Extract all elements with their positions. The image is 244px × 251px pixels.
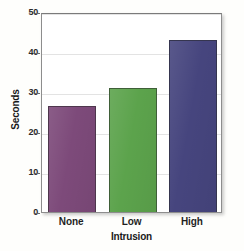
bar xyxy=(109,88,157,212)
y-axis-tick-mark xyxy=(35,13,40,14)
bar-chart-figure: Seconds 01020304050 NoneLowHigh Intrusio… xyxy=(0,0,244,251)
bar-highlight xyxy=(110,89,156,212)
gridline xyxy=(42,14,221,15)
y-axis-tick-label: 40 xyxy=(12,47,38,57)
y-axis-tick-mark xyxy=(35,93,40,94)
y-axis-tick-label: 0 xyxy=(12,207,38,217)
y-axis-tick-mark xyxy=(35,53,40,54)
x-axis-tick-label: None xyxy=(41,216,101,227)
x-axis-tick-label: High xyxy=(162,216,222,227)
x-axis-tick-label: Low xyxy=(101,216,161,227)
y-axis-tick-label: 30 xyxy=(12,87,38,97)
x-axis-title: Intrusion xyxy=(41,231,222,242)
y-axis-tick-mark xyxy=(35,133,40,134)
bar xyxy=(169,40,217,212)
y-axis-tick-label: 20 xyxy=(12,127,38,137)
bar-highlight xyxy=(170,41,216,212)
bar xyxy=(48,106,96,212)
y-axis-tick-mark xyxy=(35,213,40,214)
bar-highlight xyxy=(49,107,95,212)
y-axis-tick-label: 50 xyxy=(12,7,38,17)
y-axis-tick-label: 10 xyxy=(12,167,38,177)
y-axis-tick-mark xyxy=(35,173,40,174)
plot-area xyxy=(41,13,222,213)
